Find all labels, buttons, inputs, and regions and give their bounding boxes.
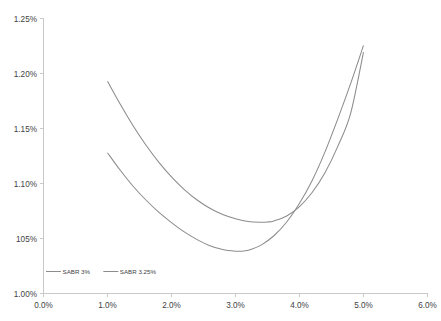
x-tick-label: 0.0% (34, 301, 53, 310)
legend-label-1: SABR 3.25% (120, 268, 157, 275)
series-line-0 (108, 45, 364, 251)
chart-axes (44, 19, 428, 294)
chart-series-lines (108, 45, 364, 251)
x-tick-label: 3.0% (226, 301, 245, 310)
chart-legend: SABR 3%SABR 3.25% (46, 268, 156, 275)
x-tick-label: 2.0% (162, 301, 181, 310)
y-tick-label: 1.15% (14, 125, 37, 134)
legend-label-0: SABR 3% (63, 268, 91, 275)
y-tick-label: 1.00% (14, 290, 37, 299)
y-tick-label: 1.10% (14, 180, 37, 189)
y-tick-label: 1.25% (14, 15, 37, 24)
x-tick-label: 4.0% (290, 301, 309, 310)
y-tick-label: 1.20% (14, 70, 37, 79)
chart-container: 1.00%105%1.10%1.15%1.20%1.25% 0.0%1.0%2.… (0, 0, 441, 321)
series-line-1 (108, 52, 364, 222)
x-tick-label: 1.0% (98, 301, 117, 310)
y-axis-tick-labels: 1.00%105%1.10%1.15%1.20%1.25% (14, 15, 37, 299)
axis-ticks (40, 19, 428, 298)
x-tick-label: 6.0% (418, 301, 437, 310)
line-chart: 1.00%105%1.10%1.15%1.20%1.25% 0.0%1.0%2.… (0, 0, 441, 321)
x-axis-tick-labels: 0.0%1.0%2.0%3.0%4.0%5.0%6.0% (34, 301, 437, 310)
y-tick-label: 105% (16, 235, 37, 244)
x-tick-label: 5.0% (354, 301, 373, 310)
